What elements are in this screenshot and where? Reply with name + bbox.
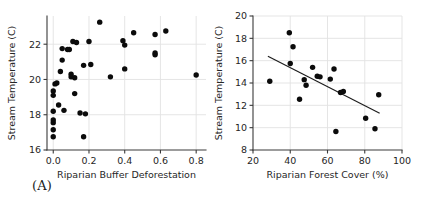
data-point <box>152 50 157 55</box>
data-point <box>288 61 293 66</box>
x-axis-title: Riparian Forest Cover (%) <box>267 169 389 180</box>
data-point <box>193 72 198 77</box>
data-point <box>77 110 82 115</box>
y-axis-title: Stream Temperature (C) <box>213 26 224 141</box>
data-point <box>88 62 93 67</box>
two-panel-scatter-figure: 0.00.20.40.60.816182022Riparian Buffer D… <box>0 0 426 205</box>
panel-b: 204060801008101214161820Riparian Forest … <box>213 0 426 205</box>
data-point <box>83 111 88 116</box>
panel-a: 0.00.20.40.60.816182022Riparian Buffer D… <box>0 0 213 205</box>
data-point <box>81 134 86 139</box>
panel-b-plot: 204060801008101214161820Riparian Forest … <box>213 0 426 205</box>
x-tick-label: 0.0 <box>46 155 61 166</box>
y-tick-label: 16 <box>235 55 247 66</box>
data-point <box>51 109 56 114</box>
data-point <box>74 40 79 45</box>
y-tick-label: 20 <box>235 10 247 21</box>
data-point <box>61 108 66 113</box>
data-point <box>328 76 333 81</box>
data-point <box>72 91 77 96</box>
data-point <box>152 32 157 37</box>
data-point <box>267 79 272 84</box>
x-tick-label: 80 <box>359 155 371 166</box>
data-point <box>287 30 292 35</box>
data-point <box>86 39 91 44</box>
data-point <box>303 83 308 88</box>
data-point <box>97 19 102 24</box>
y-tick-label: 16 <box>29 144 41 155</box>
data-point <box>310 65 315 70</box>
data-point <box>376 92 381 97</box>
data-point <box>54 80 59 85</box>
y-tick-label: 22 <box>29 39 41 50</box>
data-point <box>317 74 322 79</box>
x-tick-label: 60 <box>321 155 333 166</box>
data-point <box>81 63 86 68</box>
data-point <box>108 74 113 79</box>
x-tick-label: 0.6 <box>153 155 168 166</box>
data-point <box>56 102 61 107</box>
data-point <box>333 129 338 134</box>
data-point <box>122 66 127 71</box>
y-tick-label: 14 <box>235 77 247 88</box>
data-point <box>51 127 56 132</box>
y-tick-label: 18 <box>29 109 41 120</box>
data-point <box>363 115 368 120</box>
y-tick-label: 12 <box>235 100 247 111</box>
data-point <box>58 69 63 74</box>
x-tick-label: 100 <box>393 155 411 166</box>
data-point <box>297 96 302 101</box>
data-point <box>331 66 336 71</box>
data-point <box>51 134 56 139</box>
data-point <box>302 77 307 82</box>
panel-a-label: (A) <box>32 178 52 193</box>
x-axis-title: Riparian Buffer Deforestation <box>57 169 196 180</box>
y-tick-label: 8 <box>241 144 247 155</box>
data-point <box>163 28 168 33</box>
y-tick-label: 18 <box>235 33 247 44</box>
data-point <box>51 117 56 122</box>
data-point <box>372 126 377 131</box>
data-point <box>67 47 72 52</box>
data-point <box>59 57 64 62</box>
x-tick-label: 40 <box>284 155 296 166</box>
x-tick-label: 0.2 <box>81 155 96 166</box>
data-point <box>51 88 56 93</box>
x-tick-label: 20 <box>247 155 259 166</box>
x-tick-label: 0.4 <box>117 155 132 166</box>
x-tick-label: 0.8 <box>189 155 204 166</box>
data-point <box>290 44 295 49</box>
y-axis-title: Stream Temperature (C) <box>6 26 17 141</box>
y-tick-label: 10 <box>235 122 247 133</box>
y-tick-label: 20 <box>29 74 41 85</box>
data-point <box>72 75 77 80</box>
data-point <box>122 42 127 47</box>
data-point <box>59 46 64 51</box>
data-point <box>131 30 136 35</box>
data-point <box>341 89 346 94</box>
regression-line <box>268 56 380 113</box>
panel-a-plot: 0.00.20.40.60.816182022Riparian Buffer D… <box>0 0 213 205</box>
